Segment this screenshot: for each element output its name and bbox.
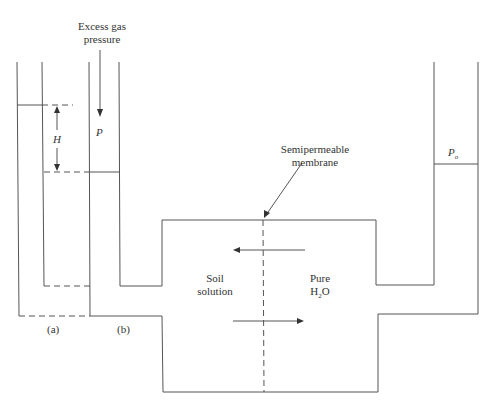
semipermeable-membrane: [263, 220, 264, 392]
membrane-pointer: [266, 163, 302, 215]
label-b: (b): [117, 323, 130, 336]
p-label: P: [96, 126, 103, 139]
lower-wall: [90, 62, 478, 392]
tube-a-inner-wall: [42, 62, 44, 286]
h-label: H: [53, 133, 61, 146]
membrane-label: Semipermeable membrane: [270, 143, 360, 169]
tube-a-outer-wall: [17, 62, 19, 316]
excess-gas-pressure-label: Excess gas pressure: [70, 20, 134, 46]
tube-b-left-wall: [89, 62, 90, 316]
po-label: Po: [448, 146, 458, 164]
osmosis-apparatus-diagram: [0, 0, 492, 405]
label-a: (a): [47, 323, 59, 336]
pure-water-label: Pure H2O: [300, 272, 340, 303]
soil-solution-label: Soil solution: [190, 272, 240, 298]
tube-b-right-wall: [119, 62, 434, 286]
